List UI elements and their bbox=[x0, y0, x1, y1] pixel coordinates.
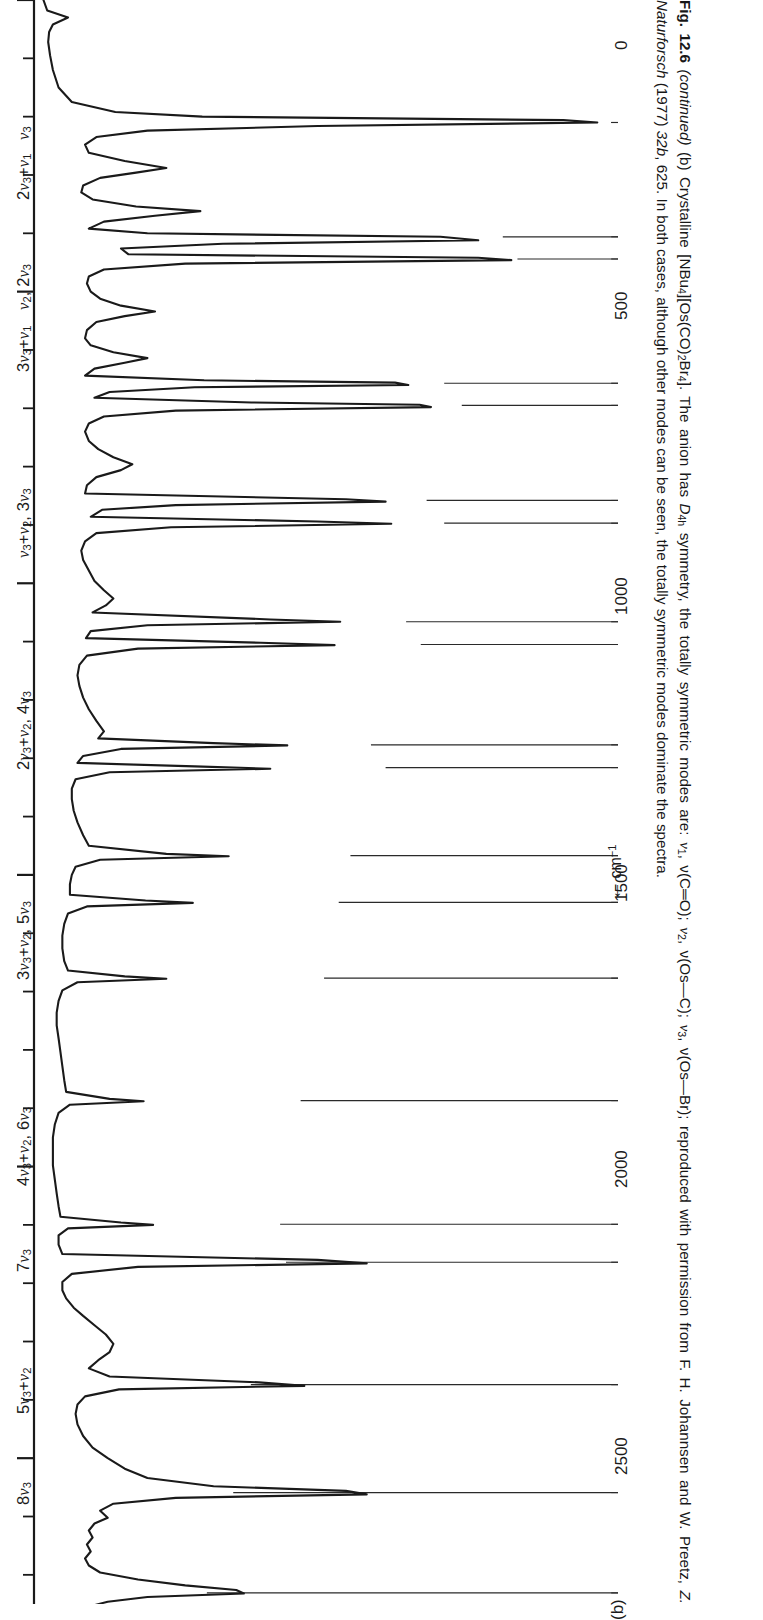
spectrum-trace bbox=[43, 0, 597, 1604]
caption-fig-number: Fig. 12.6 bbox=[677, 0, 694, 63]
spectrum-svg bbox=[0, 0, 630, 1604]
tick-label-0: 0 bbox=[612, 41, 632, 50]
peak-label-7v3: 7ν3 bbox=[14, 1249, 34, 1272]
tick-label-2500: 2500 bbox=[612, 1437, 632, 1475]
axis-group bbox=[17, 0, 34, 1604]
caption-journal-rest: (1977) bbox=[654, 79, 671, 131]
caption-continued: (continued) bbox=[677, 69, 694, 145]
tick-label-2000: 2000 bbox=[612, 1150, 632, 1188]
caption-text-b: ][Os(CO) bbox=[677, 294, 694, 355]
caption-mode3-desc: , ν(Os—Br); reproduced with permission f… bbox=[677, 1037, 694, 1590]
peak-label-v3: ν3 bbox=[14, 126, 34, 140]
axis-arrow-icon: ← bbox=[603, 883, 625, 901]
tick-label-1000: 1000 bbox=[612, 577, 632, 615]
caption-text-d: ]. The anion has bbox=[677, 382, 694, 504]
peak-label-2v3v1: 2ν3+ν1 bbox=[14, 153, 34, 200]
caption-mode2-desc: , ν(Os—C); bbox=[677, 940, 694, 1025]
caption-volume: 32b bbox=[654, 131, 671, 156]
peak-label-v3v2-3v3: ν3+ν2, 3ν3 bbox=[14, 488, 34, 558]
peak-label-3v3v2-5v3: 3ν3+ν2, 5ν3 bbox=[14, 901, 34, 980]
tick-label-500: 500 bbox=[612, 292, 632, 320]
panel-letter: (b) bbox=[608, 1599, 628, 1620]
peak-label-5v3v2: 5ν3+ν2 bbox=[14, 1367, 34, 1414]
caption-symmetry-sub: 4h bbox=[676, 514, 688, 526]
axis-title-exponent: −1 bbox=[606, 844, 618, 857]
caption-pages: , 625. In both cases, although other mod… bbox=[654, 156, 671, 878]
axis-title-unit: cm bbox=[607, 857, 624, 878]
caption-symmetry: D bbox=[677, 503, 694, 514]
spectrum-plot-rotated bbox=[0, 0, 630, 1604]
x-axis-title: ← cm−1 bbox=[603, 844, 626, 901]
figure-panel: ν3 ν2, 2ν3 ν3+ν2, 3ν3 2ν3+ν2, 4ν3 3ν3+ν2… bbox=[0, 0, 630, 1604]
caption-text-e: symmetry, the totally symmetric modes ar… bbox=[677, 526, 694, 842]
figure-caption: Fig. 12.6 (continued) (b) Crystalline [N… bbox=[630, 0, 696, 1604]
caption-text-c: Br bbox=[677, 361, 694, 376]
caption-text-a: Crystalline [NBu bbox=[677, 177, 694, 288]
peak-label-2v3v2-4v3: 2ν3+ν2, 4ν3 bbox=[14, 691, 34, 770]
caption-mode1: ν bbox=[677, 842, 694, 849]
peak-label-4v3v2-6v3: 4ν3+ν2, 6ν3 bbox=[14, 1107, 34, 1186]
caption-mode2: ν bbox=[677, 927, 694, 934]
leader-lines-group bbox=[207, 122, 618, 1592]
caption-part: (b) bbox=[677, 152, 694, 171]
peak-label-3v3v1: 3ν3+ν1 bbox=[14, 325, 34, 372]
peak-label-v2-2v3: ν2, 2ν3 bbox=[14, 264, 34, 310]
caption-mode1-desc: , ν(C═O); bbox=[677, 855, 694, 928]
peak-label-8v3: 8ν3 bbox=[14, 1482, 34, 1505]
